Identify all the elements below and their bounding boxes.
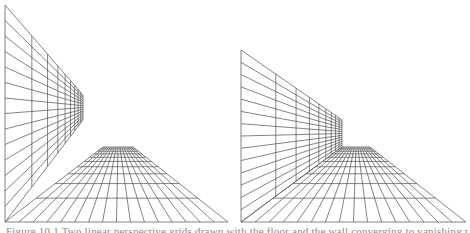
wall-converging-line: [241, 134, 342, 137]
floor-converging-line: [283, 147, 347, 222]
wall-converging-line: [241, 111, 342, 129]
wall-converging-line: [241, 124, 342, 132]
floor-converging-line: [297, 147, 349, 222]
wall-converging-line: [241, 75, 342, 124]
right-perspective-grid: [0, 0, 470, 233]
floor-converging-line: [255, 147, 344, 222]
wall-converging-line: [241, 137, 342, 160]
wall-converging-line: [241, 143, 342, 197]
floor-converging-line: [365, 147, 424, 222]
floor-converging-line: [241, 147, 342, 222]
wall-converging-line: [241, 99, 342, 128]
floor-converging-line: [311, 147, 350, 222]
floor-converging-line: [354, 147, 357, 222]
wall-converging-line: [241, 135, 342, 148]
floor-converging-line: [363, 147, 410, 222]
wall-converging-line: [241, 87, 342, 126]
perspective-figure: Figure 10.1 Two linear perspective grids…: [0, 0, 470, 233]
floor-converging-line: [370, 147, 466, 222]
wall-converging-line: [241, 62, 342, 122]
floor-converging-line: [325, 147, 352, 222]
wall-converging-line: [241, 139, 342, 173]
floor-converging-line: [367, 147, 438, 222]
figure-caption: Figure 10.1 Two linear perspective grids…: [6, 225, 468, 233]
wall-converging-line: [241, 50, 342, 120]
floor-converging-line: [368, 147, 452, 222]
